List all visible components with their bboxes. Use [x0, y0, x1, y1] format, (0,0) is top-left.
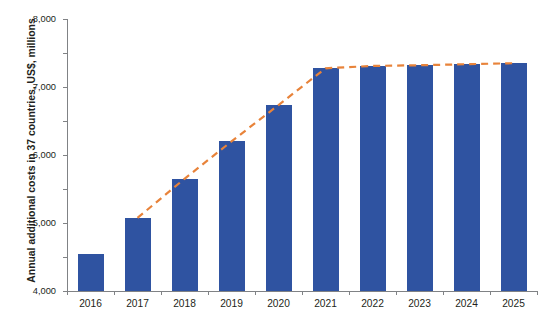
y-tick-mark: 2,000 — [63, 223, 67, 224]
y-tick-mark: 4,000 — [63, 155, 67, 156]
x-tick-mark — [302, 291, 303, 295]
y-tick-mark: 5,000 — [63, 121, 67, 122]
x-tick-mark — [537, 291, 538, 295]
bar — [454, 64, 480, 291]
x-tick-label: 2021 — [314, 298, 337, 309]
x-tick-label: 2018 — [173, 298, 196, 309]
y-axis-line — [67, 19, 68, 291]
y-tick-label: 7,000 — [33, 82, 56, 92]
bar — [78, 254, 104, 291]
x-tick-label: 2017 — [126, 298, 149, 309]
x-tick-label: 2020 — [267, 298, 290, 309]
y-tick-mark: 6,000 — [63, 87, 67, 88]
bar — [360, 66, 386, 291]
x-tick-label: 2022 — [361, 298, 384, 309]
x-tick-mark — [396, 291, 397, 295]
x-tick-mark — [208, 291, 209, 295]
x-tick-label: 2019 — [220, 298, 243, 309]
x-tick-label: 2024 — [455, 298, 478, 309]
x-tick-mark — [114, 291, 115, 295]
y-tick-mark: 3,000 — [63, 189, 67, 190]
y-tick-label: 6,000 — [33, 150, 56, 160]
bar — [313, 68, 339, 291]
bar — [266, 105, 292, 291]
y-tick-label: 8,000 — [33, 14, 56, 24]
x-tick-mark — [255, 291, 256, 295]
x-tick-mark — [161, 291, 162, 295]
y-tick-label: 4,000 — [33, 286, 56, 296]
bar — [172, 179, 198, 291]
x-tick-mark — [349, 291, 350, 295]
x-tick-label: 2025 — [502, 298, 525, 309]
x-tick-label: 2023 — [408, 298, 431, 309]
bar — [219, 141, 245, 291]
x-tick-mark — [443, 291, 444, 295]
y-tick-mark: 8,000 — [63, 19, 67, 20]
bar — [125, 218, 151, 291]
x-tick-label: 2016 — [79, 298, 102, 309]
bar — [407, 65, 433, 291]
y-tick-mark: 1,000 — [63, 257, 67, 258]
x-tick-mark — [67, 291, 68, 295]
y-tick-mark: 7,000 — [63, 53, 67, 54]
y-tick-label: 5,000 — [33, 218, 56, 228]
chart-figure: Annual additional costs in 37 countries,… — [0, 0, 551, 326]
x-tick-mark — [490, 291, 491, 295]
bar — [501, 63, 527, 291]
plot-area: 01,0002,0003,0004,0005,0006,0007,0008,00… — [67, 19, 537, 291]
